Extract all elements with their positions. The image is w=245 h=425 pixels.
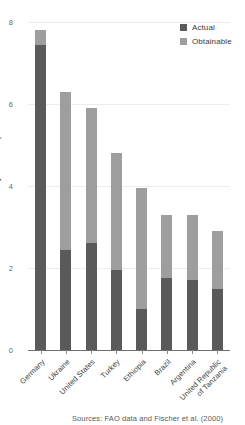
x-tick <box>66 350 67 354</box>
bar-group <box>161 22 172 350</box>
x-tick <box>41 350 42 354</box>
bar-group <box>136 22 147 350</box>
x-tick <box>91 350 92 354</box>
axis-zero-line <box>28 350 230 351</box>
bar-segment-actual <box>35 45 46 350</box>
y-tick-label: 2 <box>0 264 13 273</box>
x-tick <box>167 350 168 354</box>
bar-segment-actual <box>136 309 147 350</box>
bar-group <box>187 22 198 350</box>
bar-series-group <box>28 22 230 350</box>
x-tick <box>116 350 117 354</box>
y-tick-label: 0 <box>0 346 13 355</box>
bar-group <box>111 22 122 350</box>
y-axis-title: Yield (tonnes/ha) <box>0 136 1 204</box>
bar-segment-actual <box>111 270 122 350</box>
bar-group <box>35 22 46 350</box>
legend-item: Obtainable <box>180 36 232 47</box>
plot-area: GermanyUkraineUnited StatesTurkeyEthiopi… <box>28 22 230 350</box>
y-tick-label: 4 <box>0 182 13 191</box>
y-tick-label: 8 <box>0 18 13 27</box>
bar-group <box>86 22 97 350</box>
source-note: Sources: FAO data and Fischer et al. (20… <box>72 414 223 423</box>
bar-segment-actual <box>212 289 223 351</box>
x-tick <box>217 350 218 354</box>
x-tick <box>192 350 193 354</box>
y-tick-label: 6 <box>0 100 13 109</box>
x-tick <box>142 350 143 354</box>
bar-segment-actual <box>187 280 198 350</box>
legend-label: Obtainable <box>192 37 232 46</box>
bar-group <box>60 22 71 350</box>
legend-swatch-icon <box>180 24 187 31</box>
bar-segment-actual <box>161 278 172 350</box>
bar-group <box>212 22 223 350</box>
legend-swatch-icon <box>180 38 187 45</box>
chart-legend: ActualObtainable <box>180 22 232 50</box>
bar-segment-actual <box>86 243 97 350</box>
bar-segment-actual <box>60 250 71 350</box>
legend-item: Actual <box>180 22 232 33</box>
legend-label: Actual <box>192 23 215 32</box>
yield-bar-chart: Yield (tonnes/ha) 02468 GermanyUkraineUn… <box>0 0 245 425</box>
